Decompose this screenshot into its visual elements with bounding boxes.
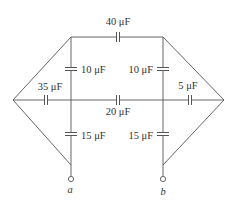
terminal-a-label: a: [67, 184, 72, 195]
circuit-svg: 40 μF 10 μF 10 μF 35 μF 20 μF 5 μF 15 μF…: [0, 0, 237, 207]
capacitor-35uF-icon: [45, 95, 48, 105]
label-10uF-right: 10 μF: [128, 64, 153, 75]
label-20uF: 20 μF: [106, 106, 131, 117]
terminal-a-icon: [68, 176, 73, 181]
terminal-b-label: b: [160, 186, 165, 197]
capacitor-40uF-icon: [117, 32, 120, 42]
capacitor-20uF-icon: [117, 95, 120, 105]
capacitor-5uF-icon: [189, 95, 192, 105]
label-5uF: 5 μF: [178, 80, 198, 91]
capacitor-circuit-diagram: 40 μF 10 μF 10 μF 35 μF 20 μF 5 μF 15 μF…: [0, 0, 237, 207]
capacitor-plates: [45, 32, 192, 136]
capacitor-15uF-right-icon: [157, 133, 169, 136]
label-35uF: 35 μF: [38, 81, 63, 92]
terminal-b-icon: [160, 176, 165, 181]
capacitor-10uF-right-icon: [157, 68, 169, 71]
label-15uF-left: 15 μF: [81, 130, 106, 141]
label-10uF-left: 10 μF: [81, 64, 106, 75]
capacitor-15uF-left-icon: [65, 133, 77, 136]
capacitor-10uF-left-icon: [65, 68, 77, 71]
label-40uF: 40 μF: [106, 16, 131, 27]
label-15uF-right: 15 μF: [128, 130, 153, 141]
